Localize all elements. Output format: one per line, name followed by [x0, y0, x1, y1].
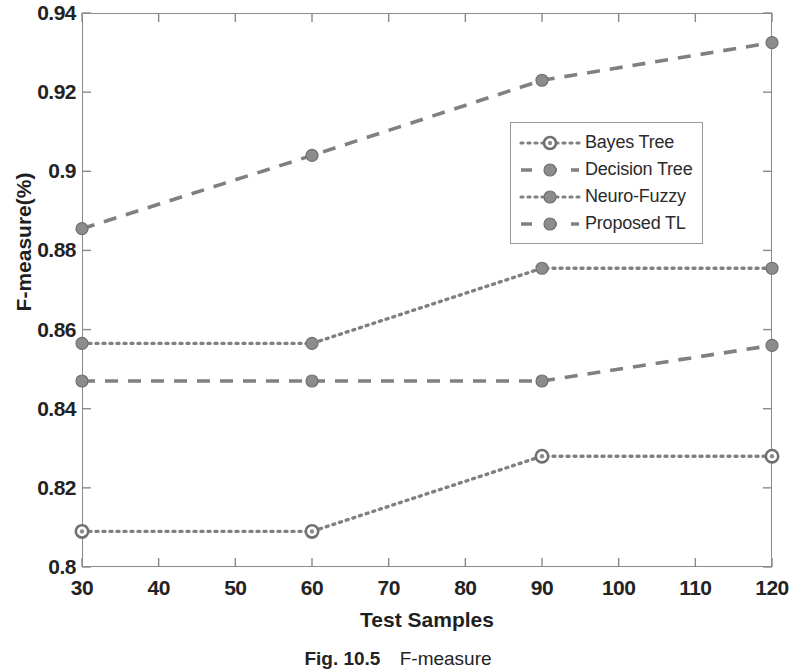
legend-item[interactable]: Proposed TL — [519, 210, 692, 237]
figure-caption: Fig. 10.5 F-measure — [0, 648, 796, 670]
data-point-marker — [536, 375, 548, 387]
legend-label: Decision Tree — [585, 159, 692, 180]
legend-item[interactable]: Decision Tree — [519, 156, 692, 183]
data-point-marker-core — [80, 529, 84, 533]
legend-item[interactable]: Neuro-Fuzzy — [519, 183, 692, 210]
data-point-marker — [306, 337, 318, 349]
legend-swatch — [519, 132, 581, 154]
y-axis-tick-label: 0.84 — [6, 397, 76, 421]
caption-text: F-measure — [400, 648, 492, 669]
x-axis-title: Test Samples — [82, 608, 772, 632]
x-axis-tick-label: 110 — [660, 576, 730, 600]
caption-number: Fig. 10.5 — [304, 648, 380, 669]
data-point-marker — [306, 375, 318, 387]
data-point-marker — [536, 262, 548, 274]
x-axis-tick-label: 120 — [737, 576, 796, 600]
data-point-marker — [76, 337, 88, 349]
legend: Bayes TreeDecision TreeNeuro-FuzzyPropos… — [510, 122, 703, 244]
legend-label: Bayes Tree — [585, 132, 674, 153]
legend-item[interactable]: Bayes Tree — [519, 129, 692, 156]
x-axis-tick-label: 40 — [124, 576, 194, 600]
data-point-marker — [536, 74, 548, 86]
data-point-marker — [306, 149, 318, 161]
legend-line-sample — [519, 132, 581, 154]
legend-swatch — [519, 213, 581, 235]
legend-line-sample — [519, 186, 581, 208]
x-axis-tick-label: 60 — [277, 576, 347, 600]
x-axis-tick-label: 50 — [200, 576, 270, 600]
x-axis-tick-label: 30 — [47, 576, 117, 600]
data-point-marker-core — [310, 529, 314, 533]
data-point-marker — [76, 375, 88, 387]
series-line-neuro-fuzzy — [82, 268, 772, 343]
legend-swatch — [519, 186, 581, 208]
y-axis-tick-label: 0.94 — [6, 1, 76, 25]
series-line-bayes-tree — [82, 456, 772, 531]
plot-canvas — [82, 13, 772, 567]
data-point-marker — [766, 37, 778, 49]
data-point-marker — [766, 262, 778, 274]
y-axis-title: F-measure(%) — [12, 122, 36, 362]
x-axis-tick-label: 100 — [584, 576, 654, 600]
legend-swatch — [519, 159, 581, 181]
data-point-marker — [766, 339, 778, 351]
x-axis-tick-labels: 30405060708090100110120 — [82, 576, 772, 606]
legend-line-sample — [519, 213, 581, 235]
y-axis-tick-label: 0.92 — [6, 80, 76, 104]
x-axis-tick-label: 90 — [507, 576, 577, 600]
figure-container: 0.80.820.840.860.880.90.920.94 304050607… — [0, 0, 796, 671]
y-axis-tick-label: 0.82 — [6, 476, 76, 500]
legend-label: Proposed TL — [585, 213, 686, 234]
data-point-marker-core — [540, 454, 544, 458]
legend-label: Neuro-Fuzzy — [585, 186, 686, 207]
data-point-marker-core — [770, 454, 774, 458]
data-point-marker — [76, 223, 88, 235]
series-line-decision-tree — [82, 345, 772, 381]
x-axis-tick-label: 70 — [354, 576, 424, 600]
legend-line-sample — [519, 159, 581, 181]
x-axis-tick-label: 80 — [430, 576, 500, 600]
